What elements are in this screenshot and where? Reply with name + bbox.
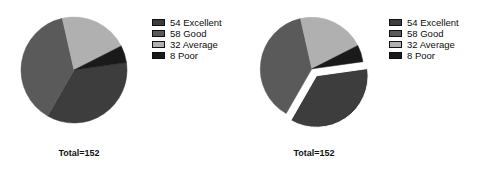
legend-label-excellent: 54 Excellent bbox=[407, 18, 459, 27]
legend-item-average: 32 Average bbox=[389, 40, 459, 49]
legend-right: 54 Excellent 58 Good 32 Average 8 Poor bbox=[389, 18, 459, 60]
total-caption-left: Total=152 bbox=[44, 148, 114, 158]
legend-item-average: 32 Average bbox=[152, 40, 222, 49]
legend-label-poor: 8 Poor bbox=[407, 51, 435, 60]
legend-left: 54 Excellent 58 Good 32 Average 8 Poor bbox=[152, 18, 222, 60]
pie-exploded-svg bbox=[254, 12, 378, 134]
chart-panel-left: Total=152 54 Excellent 58 Good 32 Averag… bbox=[0, 0, 238, 173]
legend-swatch-average bbox=[152, 41, 165, 48]
pie-chart-exploded bbox=[254, 12, 378, 134]
legend-label-good: 58 Good bbox=[170, 29, 206, 38]
pie-standard-svg bbox=[20, 16, 128, 124]
total-caption-right: Total=152 bbox=[274, 148, 354, 158]
legend-label-excellent: 54 Excellent bbox=[170, 18, 222, 27]
legend-item-poor: 8 Poor bbox=[152, 51, 222, 60]
legend-swatch-average bbox=[389, 41, 402, 48]
legend-label-average: 32 Average bbox=[170, 40, 218, 49]
legend-item-good: 58 Good bbox=[152, 29, 222, 38]
legend-swatch-excellent bbox=[152, 19, 165, 26]
legend-label-poor: 8 Poor bbox=[170, 51, 198, 60]
legend-swatch-poor bbox=[152, 52, 165, 59]
legend-swatch-good bbox=[152, 30, 165, 37]
legend-item-good: 58 Good bbox=[389, 29, 459, 38]
legend-label-good: 58 Good bbox=[407, 29, 443, 38]
legend-swatch-excellent bbox=[389, 19, 402, 26]
legend-label-average: 32 Average bbox=[407, 40, 455, 49]
legend-item-excellent: 54 Excellent bbox=[152, 18, 222, 27]
figure-root: Total=152 54 Excellent 58 Good 32 Averag… bbox=[0, 0, 477, 173]
legend-item-excellent: 54 Excellent bbox=[389, 18, 459, 27]
legend-swatch-poor bbox=[389, 52, 402, 59]
legend-item-poor: 8 Poor bbox=[389, 51, 459, 60]
chart-panel-right: Total=152 54 Excellent 58 Good 32 Averag… bbox=[238, 0, 477, 173]
legend-swatch-good bbox=[389, 30, 402, 37]
pie-chart-standard bbox=[20, 16, 128, 124]
